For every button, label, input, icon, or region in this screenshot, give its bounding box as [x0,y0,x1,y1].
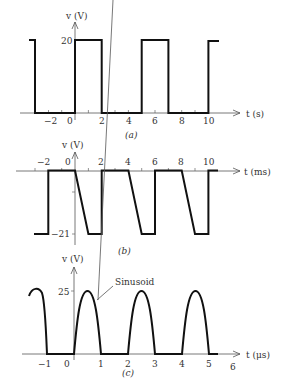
chart-c-ytick-25: 25 [58,287,70,297]
chart-c-annotation-leader [98,0,113,300]
chart-a-xtick: 6 [152,116,158,126]
chart-b-ytick-minus21: −21 [51,229,70,239]
chart-c-annotation-pointer [97,286,113,300]
chart-c-xtick: 4 [179,359,185,369]
chart-b-ticks [35,168,195,234]
chart-a-xtick: 2 [99,116,105,126]
chart-a-xtick: 0 [67,116,73,126]
chart-b-xtick: −2 [37,157,50,167]
chart-c: Sinusoid v (V) 25 −1 0 1 2 3 4 5 6 t (μs… [22,0,270,378]
chart-a-xtick: −2 [44,116,57,126]
chart-c-xtick: 5 [206,359,212,369]
chart-b-caption: (b) [118,246,131,256]
chart-b: v (V) −21 −2 0 2 4 6 8 10 t (ms) (b) [16,140,271,256]
chart-b-waveform [34,171,218,235]
chart-a-ytick-20: 20 [61,36,73,46]
chart-a-xtick: 4 [126,116,132,126]
chart-a-xtick: 10 [203,116,215,126]
chart-c-rectified-sinusoid [29,289,218,354]
chart-b-xtick: 4 [125,157,131,167]
chart-c-xtick: 6 [230,362,236,372]
chart-a-square-wave [29,40,219,113]
chart-a: v (V) 20 −2 0 2 4 6 8 10 t (s) (a) [20,11,264,140]
chart-b-xtick: 8 [178,157,184,167]
chart-c-ylabel: v (V) [61,254,83,264]
chart-a-ylabel: v (V) [65,11,87,21]
chart-c-xtick: 3 [152,359,158,369]
chart-c-xtick: 1 [98,359,104,369]
chart-c-xtick: 0 [64,359,70,369]
chart-c-caption: (c) [122,368,135,378]
chart-a-xlabel: t (s) [246,109,264,119]
chart-b-xlabel: t (ms) [244,167,271,177]
figure-canvas: v (V) 20 −2 0 2 4 6 8 10 t (s) (a) v (V)… [0,0,285,382]
chart-c-xtick: −1 [38,359,51,369]
chart-c-xlabel: t (μs) [246,350,270,360]
chart-b-ylabel: v (V) [61,140,83,150]
chart-b-xtick: 10 [203,157,215,167]
chart-a-caption: (a) [125,130,138,140]
chart-b-xtick: 6 [152,157,158,167]
chart-a-xtick: 8 [179,116,185,126]
chart-b-xtick: 0 [65,157,71,167]
chart-b-xtick: 2 [98,157,104,167]
chart-c-annotation-sinusoid: Sinusoid [115,277,155,287]
